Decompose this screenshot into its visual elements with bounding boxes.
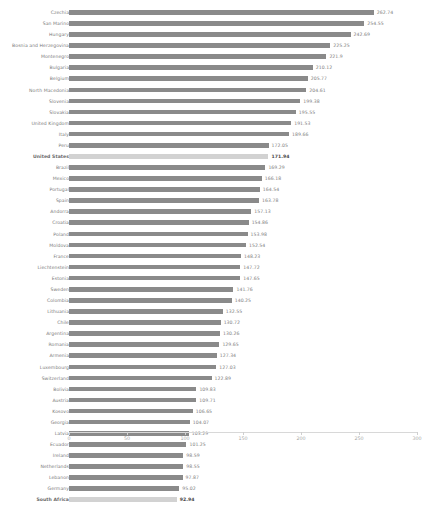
bar-row: Austria109.71 <box>0 395 432 406</box>
bar-track: 98.59 <box>69 450 417 461</box>
bar-track: 152.54 <box>69 240 417 251</box>
bar-track: 210.12 <box>69 62 417 73</box>
category-label: Lebanon <box>49 472 69 483</box>
bar-row: Lebanon97.87 <box>0 472 432 483</box>
bar-value-label: 109.71 <box>199 395 215 406</box>
bar-track: 205.77 <box>69 73 417 84</box>
bar-track: 130.72 <box>69 317 417 328</box>
bar-value-label: 153.98 <box>251 229 267 240</box>
bar-value-label: 127.03 <box>219 362 235 373</box>
bar-row: Germany95.02 <box>0 483 432 494</box>
bar-track: 95.02 <box>69 483 417 494</box>
bar <box>69 99 300 104</box>
bar-track: 104.07 <box>69 417 417 428</box>
bar <box>69 209 251 214</box>
bar-row: San Marino254.55 <box>0 18 432 29</box>
bar-track: 199.38 <box>69 96 417 107</box>
bar-value-label: 157.13 <box>254 206 270 217</box>
category-label: Sweden <box>51 284 69 295</box>
bar <box>69 376 212 381</box>
bar-value-label: 147.72 <box>243 262 259 273</box>
category-label: North Macedonia <box>29 85 69 96</box>
x-axis-tick-label: 100 <box>180 436 189 441</box>
category-label: Moldova <box>49 240 69 251</box>
category-label: Poland <box>53 229 69 240</box>
category-label: Kosovo <box>52 406 69 417</box>
bar-value-label: 97.87 <box>186 472 199 483</box>
category-label: Portugal <box>50 184 69 195</box>
bar-value-label: 195.55 <box>299 107 315 118</box>
bar-value-label: 148.23 <box>244 251 260 262</box>
bar <box>69 143 269 148</box>
bar-row: Bulgaria210.12 <box>0 62 432 73</box>
bar-row: Spain163.78 <box>0 195 432 206</box>
bar <box>69 232 248 237</box>
bar-row: Kosovo106.65 <box>0 406 432 417</box>
bar <box>69 176 262 181</box>
category-label: Slovakia <box>49 107 69 118</box>
bar-value-label: 140.25 <box>235 295 251 306</box>
bar-row: Chile130.72 <box>0 317 432 328</box>
bar-value-label: 109.83 <box>199 384 215 395</box>
bar-track: 191.53 <box>69 118 417 129</box>
bar <box>69 165 265 170</box>
bar-value-label: 130.72 <box>224 317 240 328</box>
bar <box>69 65 313 70</box>
x-axis-tick-mark <box>185 432 186 435</box>
bar <box>69 331 220 336</box>
bar-track: 98.55 <box>69 461 417 472</box>
category-label: Hungary <box>49 29 69 40</box>
bar-track: 127.03 <box>69 362 417 373</box>
bar-row: Luxembourg127.03 <box>0 362 432 373</box>
bar-value-label: 242.69 <box>354 29 370 40</box>
bar <box>69 254 241 259</box>
category-label: South Africa <box>36 494 69 505</box>
x-axis-tick-mark <box>127 432 128 435</box>
bar-value-label: 127.34 <box>220 350 236 361</box>
bar <box>69 76 308 81</box>
bar-value-label: 164.54 <box>263 184 279 195</box>
category-label: Montenegro <box>41 51 69 62</box>
bar <box>69 420 190 425</box>
x-axis-tick-label: 0 <box>67 436 70 441</box>
bar <box>69 475 183 480</box>
bar-value-label: 95.02 <box>182 483 195 494</box>
bar-value-label: 254.55 <box>367 18 383 29</box>
bar <box>69 265 240 270</box>
bar-value-label: 98.55 <box>186 461 199 472</box>
bar <box>69 10 374 15</box>
category-label: Luxembourg <box>40 362 69 373</box>
category-label: Czechia <box>51 7 69 18</box>
bar-track: 109.71 <box>69 395 417 406</box>
bar-value-label: 166.18 <box>265 173 281 184</box>
x-axis-tick-label: 200 <box>296 436 305 441</box>
bar <box>69 198 259 203</box>
x-axis-tick-mark <box>417 432 418 435</box>
category-label: Estonia <box>52 273 69 284</box>
category-label: Colombia <box>47 295 69 306</box>
bar-row: Moldova152.54 <box>0 240 432 251</box>
bar-value-label: 122.89 <box>215 373 231 384</box>
bar-track: 140.25 <box>69 295 417 306</box>
bar-row: Liechtenstein147.72 <box>0 262 432 273</box>
bar <box>69 187 260 192</box>
category-label: Brazil <box>56 162 69 173</box>
x-axis-tick-mark <box>359 432 360 435</box>
bar-row: United Kingdom191.53 <box>0 118 432 129</box>
category-label: Lithuania <box>47 306 69 317</box>
bar-track: 132.55 <box>69 306 417 317</box>
bar-track: 148.23 <box>69 251 417 262</box>
bar-row: Montenegro221.9 <box>0 51 432 62</box>
category-label: Mexico <box>53 173 69 184</box>
bar-row: United States171.94 <box>0 151 432 162</box>
bar <box>69 320 221 325</box>
bar-track: 172.05 <box>69 140 417 151</box>
bar <box>69 287 233 292</box>
x-axis: 050100150200250300 <box>69 432 417 450</box>
bar-row: Sweden141.76 <box>0 284 432 295</box>
bar-row: Croatia154.86 <box>0 217 432 228</box>
bar <box>69 243 246 248</box>
bar-value-label: 163.78 <box>262 195 278 206</box>
bar <box>69 365 216 370</box>
